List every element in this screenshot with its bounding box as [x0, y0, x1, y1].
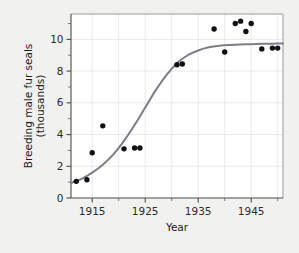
fur-seal-scatter-plot: 02468101915192519351945YearBreeding male…	[0, 0, 299, 253]
x-axis-tick-label: 1925	[132, 205, 159, 217]
y-axis-tick-label: 10	[50, 33, 63, 45]
x-axis-tick-label: 1945	[238, 205, 265, 217]
data-point	[121, 146, 126, 151]
data-point	[259, 46, 264, 51]
y-axis-tick-label: 6	[57, 96, 64, 108]
data-point	[74, 179, 79, 184]
data-point	[249, 21, 254, 26]
data-point	[211, 26, 216, 31]
y-axis-tick-label: 0	[57, 192, 64, 204]
y-axis-title-line2: (thousands)	[34, 75, 46, 138]
y-axis-tick-label: 2	[57, 160, 64, 172]
y-axis-title-line1: Breeding male fur seals	[22, 44, 34, 169]
data-point	[275, 45, 280, 50]
chart-container: 02468101915192519351945YearBreeding male…	[0, 0, 299, 253]
data-point	[238, 18, 243, 23]
data-point	[90, 150, 95, 155]
y-axis-tick-label: 4	[57, 128, 64, 140]
y-axis-tick-label: 8	[57, 65, 64, 77]
data-point	[132, 145, 137, 150]
data-point	[180, 61, 185, 66]
x-axis-tick-label: 1915	[79, 205, 106, 217]
x-axis-tick-label: 1935	[185, 205, 212, 217]
data-point	[270, 45, 275, 50]
x-axis-title: Year	[165, 221, 189, 233]
data-point	[243, 29, 248, 34]
data-point	[174, 62, 179, 67]
data-point	[137, 145, 142, 150]
data-point	[84, 177, 89, 182]
data-point	[222, 49, 227, 54]
data-point	[233, 21, 238, 26]
data-point	[100, 123, 105, 128]
